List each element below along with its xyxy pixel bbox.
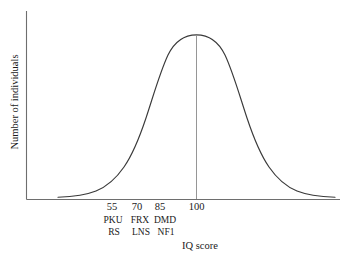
x-axis-title: IQ score <box>182 240 218 251</box>
x-tick-label-55: 55 <box>107 201 118 212</box>
disorder-label-frx: FRX <box>131 215 150 225</box>
disorder-label-rs: RS <box>108 227 120 237</box>
y-axis-title: Number of individuals <box>9 54 20 149</box>
disorder-label-nf1: NF1 <box>158 227 175 237</box>
normal-distribution-chart: 55 70 85 100 PKU FRX DMD RS LNS NF1 IQ s… <box>0 0 349 263</box>
x-tick-label-100: 100 <box>189 201 205 212</box>
disorder-label-pku: PKU <box>103 215 122 225</box>
figure-container: 55 70 85 100 PKU FRX DMD RS LNS NF1 IQ s… <box>0 0 349 263</box>
x-tick-label-85: 85 <box>155 201 166 212</box>
x-tick-label-70: 70 <box>132 201 143 212</box>
disorder-label-dmd: DMD <box>154 215 176 225</box>
disorder-label-lns: LNS <box>132 227 150 237</box>
